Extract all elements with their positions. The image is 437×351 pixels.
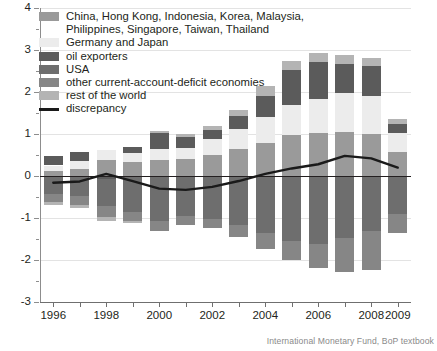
y-tick--2 bbox=[34, 260, 39, 261]
source-caption: International Monetary Fund, BoP textboo… bbox=[267, 336, 434, 346]
legend-swatch-oil_exporters bbox=[39, 52, 59, 61]
y-axis-label-3: 3 bbox=[25, 44, 31, 56]
legend-item-rest_of_world: rest of the world bbox=[39, 89, 304, 102]
x-tick-1996 bbox=[53, 302, 54, 307]
y-axis-label-0: 0 bbox=[25, 170, 31, 182]
x-tick-2003 bbox=[239, 302, 240, 307]
legend-swatch-germany_japan bbox=[39, 38, 59, 47]
legend-line-swatch-discrepancy bbox=[39, 104, 59, 113]
legend-swatch-rest_of_world bbox=[39, 91, 59, 100]
legend-swatch-asia bbox=[39, 12, 59, 21]
x-tick-2009 bbox=[398, 302, 399, 307]
x-tick-1998 bbox=[106, 302, 107, 307]
x-tick-2002 bbox=[212, 302, 213, 307]
x-tick-2006 bbox=[318, 302, 319, 307]
legend-item-usa: USA bbox=[39, 63, 304, 76]
x-tick-2007 bbox=[345, 302, 346, 307]
legend-item-other_deficit: other current-account-deficit economies bbox=[39, 76, 304, 89]
y-tick-0 bbox=[34, 176, 39, 177]
x-axis-label-1998: 1998 bbox=[93, 310, 119, 322]
x-axis-label-2004: 2004 bbox=[252, 310, 278, 322]
legend-label-rest_of_world: rest of the world bbox=[66, 89, 146, 102]
legend-label-discrepancy: discrepancy bbox=[66, 102, 126, 115]
x-axis-label-2009: 2009 bbox=[385, 310, 411, 322]
x-tick-2008 bbox=[371, 302, 372, 307]
y-tick--1 bbox=[34, 218, 39, 219]
y-minor-tick bbox=[36, 281, 39, 282]
y-minor-tick bbox=[36, 197, 39, 198]
x-tick-2001 bbox=[186, 302, 187, 307]
x-tick-1999 bbox=[133, 302, 134, 307]
y-tick--3 bbox=[34, 302, 39, 303]
chart-root: -3-2-101234 China, Hong Kong, Indonesia,… bbox=[0, 0, 437, 351]
y-minor-tick bbox=[36, 239, 39, 240]
legend-item-discrepancy: discrepancy bbox=[39, 102, 304, 115]
x-axis-label-2000: 2000 bbox=[146, 310, 172, 322]
legend-label-other_deficit: other current-account-deficit economies bbox=[66, 76, 264, 89]
x-tick-1997 bbox=[80, 302, 81, 307]
chart-legend: China, Hong Kong, Indonesia, Korea, Mala… bbox=[39, 10, 304, 116]
legend-label-asia: China, Hong Kong, Indonesia, Korea, Mala… bbox=[66, 10, 304, 36]
x-axis-label-2008: 2008 bbox=[358, 310, 384, 322]
y-axis-label--1: -1 bbox=[21, 212, 31, 224]
legend-swatch-other_deficit bbox=[39, 78, 59, 87]
legend-label-oil_exporters: oil exporters bbox=[66, 50, 128, 63]
y-tick-1 bbox=[34, 134, 39, 135]
legend-item-germany_japan: Germany and Japan bbox=[39, 36, 304, 49]
x-tick-2000 bbox=[159, 302, 160, 307]
legend-label-germany_japan: Germany and Japan bbox=[66, 36, 168, 49]
y-minor-tick bbox=[36, 155, 39, 156]
x-axis-label-2006: 2006 bbox=[305, 310, 331, 322]
y-axis-label-1: 1 bbox=[25, 128, 31, 140]
legend-label-usa: USA bbox=[66, 63, 89, 76]
legend-item-oil_exporters: oil exporters bbox=[39, 50, 304, 63]
legend-item-asia: China, Hong Kong, Indonesia, Korea, Mala… bbox=[39, 10, 304, 36]
discrepancy-polyline bbox=[53, 156, 398, 190]
x-axis-label-1996: 1996 bbox=[40, 310, 66, 322]
y-tick-4 bbox=[34, 8, 39, 9]
x-axis bbox=[40, 302, 411, 303]
y-axis-label-4: 4 bbox=[25, 2, 31, 14]
y-axis-label--2: -2 bbox=[21, 254, 31, 266]
x-tick-2004 bbox=[265, 302, 266, 307]
x-tick-2005 bbox=[292, 302, 293, 307]
y-axis-label-2: 2 bbox=[25, 86, 31, 98]
legend-swatch-usa bbox=[39, 65, 59, 74]
y-axis-label--3: -3 bbox=[21, 296, 31, 308]
x-axis-label-2002: 2002 bbox=[199, 310, 225, 322]
